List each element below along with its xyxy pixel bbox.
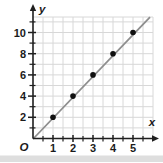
y-axis-label: y	[38, 3, 46, 15]
x-axis-label: x	[148, 116, 156, 128]
x-tick-label: 1	[50, 142, 56, 154]
x-tick-label: 4	[110, 142, 117, 154]
bottom-strip	[0, 156, 163, 163]
graph-figure: 12345246810yxO	[0, 0, 163, 163]
data-point	[130, 30, 136, 36]
data-point	[90, 72, 96, 78]
line-graph: 12345246810yxO	[0, 0, 163, 163]
x-tick-label: 2	[70, 142, 76, 154]
origin-label: O	[20, 141, 29, 153]
y-tick-label: 6	[20, 69, 26, 81]
x-tick-label: 5	[130, 142, 136, 154]
data-point	[70, 93, 76, 99]
y-tick-label: 4	[20, 90, 27, 102]
y-tick-label: 10	[14, 27, 26, 39]
y-tick-label: 8	[20, 48, 26, 60]
x-tick-label: 3	[90, 142, 96, 154]
y-tick-label: 2	[20, 111, 26, 123]
data-point	[110, 51, 116, 57]
data-point	[50, 115, 56, 121]
